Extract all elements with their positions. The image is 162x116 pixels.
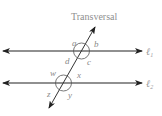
angle-label-c: c — [87, 57, 91, 67]
line-label-l1: ℓ1 — [146, 46, 153, 58]
angle-label-d: d — [65, 56, 70, 66]
transversal-title: Transversal — [71, 11, 118, 22]
diagram-canvas: Transversal a b d c w x z y ℓ1 ℓ2 — [0, 0, 162, 116]
angle-label-b: b — [94, 39, 99, 49]
angle-label-x: x — [76, 70, 81, 80]
angle-label-y: y — [67, 90, 72, 100]
angle-label-z: z — [46, 89, 51, 99]
angle-label-w: w — [50, 68, 56, 78]
angle-label-a: a — [72, 38, 77, 48]
line-label-l2: ℓ2 — [146, 78, 153, 90]
transversal-diagram: Transversal a b d c w x z y ℓ1 ℓ2 — [0, 0, 162, 116]
